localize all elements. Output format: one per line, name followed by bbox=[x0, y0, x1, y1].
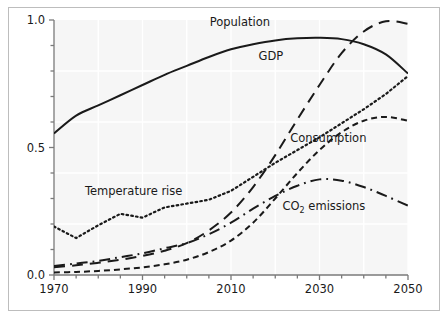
x-tick-label: 2030 bbox=[305, 282, 334, 296]
x-tick-label: 1990 bbox=[128, 282, 157, 296]
x-tick-label: 1970 bbox=[39, 282, 68, 296]
line-chart: 0.00.51.019701990201020302050 Population… bbox=[0, 0, 448, 318]
x-tick-label: 2010 bbox=[216, 282, 245, 296]
series-label-gdp: GDP bbox=[258, 49, 283, 63]
series-label-suffix: emissions bbox=[305, 199, 366, 213]
series-label-temperature-rise: Temperature rise bbox=[84, 184, 183, 198]
y-tick-label: 0.5 bbox=[27, 141, 45, 155]
chart-figure: 0.00.51.019701990201020302050 Population… bbox=[0, 0, 448, 318]
series-label-consumption: Consumption bbox=[290, 131, 366, 145]
series-label-population: Population bbox=[210, 15, 270, 29]
series-label-co2-emissions: CO2 emissions bbox=[283, 199, 366, 215]
y-tick-label: 0.0 bbox=[27, 268, 45, 282]
y-tick-label: 1.0 bbox=[27, 13, 45, 27]
x-tick-label: 2050 bbox=[393, 282, 422, 296]
series-label-prefix: CO bbox=[283, 199, 300, 213]
